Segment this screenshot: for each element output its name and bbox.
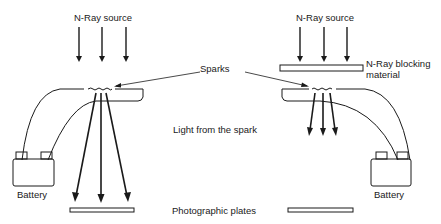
- n-ray-source-left-label: N-Ray source: [74, 12, 132, 23]
- light-rays-left: [72, 93, 131, 203]
- n-ray-arrows-left: [76, 27, 129, 62]
- n-ray-arrows-right: [297, 27, 350, 62]
- light-from-spark-label: Light from the spark: [173, 124, 257, 135]
- blocking-material-label-line2: material: [366, 69, 400, 80]
- battery-left: [13, 152, 54, 186]
- photographic-plate-left: [70, 208, 134, 212]
- blocking-material-plate: [280, 65, 363, 71]
- n-ray-source-right-label: N-Ray source: [296, 12, 354, 23]
- light-rays-right: [307, 93, 338, 136]
- photographic-plates-label: Photographic plates: [172, 205, 256, 216]
- spark-gap-right: [282, 88, 410, 160]
- battery-right-label: Battery: [374, 189, 404, 200]
- blocking-material-label-line1: N-Ray blocking: [366, 58, 430, 69]
- spark-gap-left: [22, 88, 143, 160]
- sparks-label: Sparks: [200, 63, 230, 74]
- battery-right: [371, 152, 411, 186]
- battery-left-label: Battery: [17, 189, 47, 200]
- photographic-plate-right: [288, 208, 353, 212]
